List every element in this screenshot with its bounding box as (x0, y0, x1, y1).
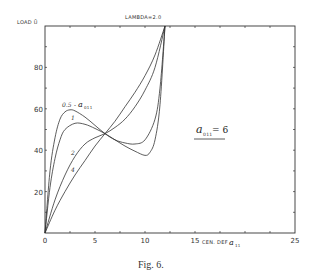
y-tick-label: 40 (34, 147, 43, 155)
x-tick-labels: 05101525 (43, 237, 300, 245)
x-tick-label: 10 (141, 237, 150, 245)
x-tick-label: 15 (191, 237, 200, 245)
y-tick-labels: 20406080 (34, 64, 43, 196)
y-tick-label: 80 (34, 64, 43, 72)
x-axis-symbol: a (229, 238, 234, 247)
chart-title: LAMBDA=2.0 (125, 14, 161, 20)
x-axis-subscript: 11 (235, 243, 241, 248)
curve-1 (45, 26, 165, 233)
x-tick-label: 5 (93, 237, 97, 245)
plot-frame (45, 26, 295, 233)
curve-label-0.5-symbol: a (78, 100, 83, 109)
annotation-symbol: a (196, 123, 203, 136)
curves (45, 26, 165, 233)
x-axis-label: CEN. DEF (202, 239, 228, 245)
y-tick-label: 60 (34, 106, 43, 114)
curve-label-2: 2 (70, 149, 75, 156)
figure-caption: Fig. 6. (138, 259, 164, 270)
curve-label-4: 4 (70, 166, 75, 173)
curve-4 (45, 26, 165, 233)
y-ticks (45, 47, 295, 213)
annotation-value: = 6 (212, 125, 228, 135)
chart-canvas: LAMBDA=2.0 LOAD Ū 05101525 20406080 CEN.… (0, 0, 313, 274)
curve-label-0.5-subscript: 011 (84, 105, 93, 110)
y-axis-label: LOAD Ū (17, 19, 38, 25)
curve-2 (45, 26, 165, 233)
curve-label-1: 1 (71, 114, 75, 121)
y-tick-label: 20 (34, 189, 43, 197)
x-tick-label: 0 (43, 237, 47, 245)
x-tick-label: 25 (291, 237, 300, 245)
curve-label-0.5-dash: - (74, 101, 76, 108)
curve-0.5 (45, 26, 165, 233)
curve-label-0.5: 0.5 (62, 101, 72, 108)
